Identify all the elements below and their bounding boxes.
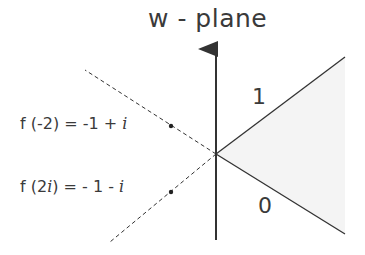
upper-dashed-ray xyxy=(85,70,216,154)
annotation-f-minus-2: f (-2) = -1 + i xyxy=(20,114,127,133)
annotation-f-2i: f (2i) = - 1 - i xyxy=(20,177,124,196)
imaginary-unit: i xyxy=(119,177,124,196)
annotation-text: f (-2) = -1 + xyxy=(20,114,122,133)
imaginary-unit: i xyxy=(122,114,127,133)
plane-title: w - plane xyxy=(148,4,267,33)
lower-dashed-ray xyxy=(110,154,216,242)
annotation-text: f (2 xyxy=(20,177,47,196)
point-f-2i xyxy=(169,190,173,194)
w-plane-diagram: w - plane 1 0 f (-2) = -1 + i f (2i) = -… xyxy=(0,0,365,255)
point-f-minus-2 xyxy=(169,124,173,128)
region-label-0: 0 xyxy=(258,193,272,218)
shaded-wedge xyxy=(216,57,345,234)
region-label-1: 1 xyxy=(252,84,266,109)
annotation-text: ) = - 1 - xyxy=(52,177,119,196)
